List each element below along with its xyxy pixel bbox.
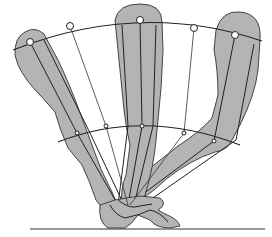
node-icon	[67, 23, 74, 30]
leg-left	[15, 29, 124, 211]
node-icon	[232, 32, 239, 39]
node-icon	[182, 131, 186, 135]
node-icon	[104, 124, 108, 128]
foot-cluster	[100, 196, 180, 228]
node-icon	[191, 25, 198, 32]
node-icon	[27, 39, 34, 46]
node-icon	[75, 131, 79, 135]
node-icon	[137, 17, 144, 24]
node-icon	[212, 139, 216, 143]
stride-diagram	[0, 0, 272, 237]
node-icon	[140, 124, 144, 128]
